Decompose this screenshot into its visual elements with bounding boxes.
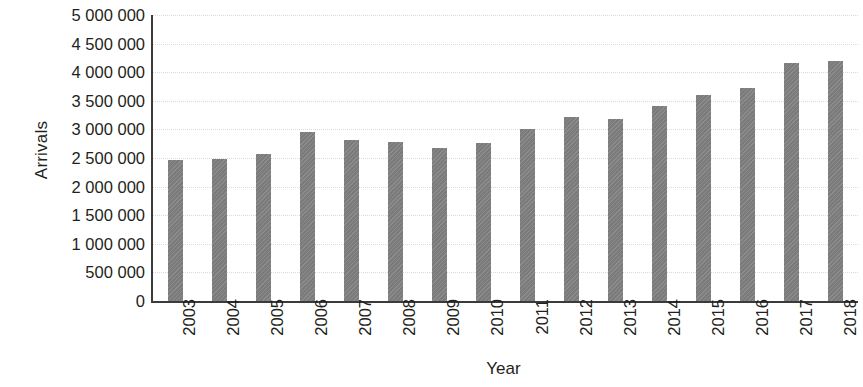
x-axis-tick-label: 2010: [489, 299, 506, 355]
x-axis-tick-label: 2012: [578, 299, 595, 355]
x-axis-tick-label: 2003: [181, 299, 198, 355]
bar[interactable]: [168, 160, 183, 301]
y-axis-tick-label: 0: [40, 293, 145, 309]
y-axis-tick-label: 2 000 000: [40, 179, 145, 195]
x-axis-tick-label: 2017: [798, 299, 815, 355]
bar[interactable]: [520, 129, 535, 301]
x-axis-tick-label: 2009: [445, 299, 462, 355]
y-axis-tick-label: 500 000: [40, 264, 145, 280]
bar[interactable]: [608, 119, 623, 301]
bar[interactable]: [432, 148, 447, 301]
x-axis-tick-label: 2007: [357, 299, 374, 355]
bar[interactable]: [476, 143, 491, 301]
x-axis-tick-label: 2005: [269, 299, 286, 355]
x-axis-title: Year: [151, 359, 856, 379]
plot-area: [151, 15, 858, 303]
x-axis-tick-labels: 2003200420052006200720082009201020112012…: [151, 303, 856, 359]
bar[interactable]: [828, 61, 843, 301]
bar-chart: Arrivals 0500 0001 000 0001 500 0002 000…: [0, 0, 863, 387]
x-axis-tick-label: 2015: [710, 299, 727, 355]
bar[interactable]: [652, 106, 667, 301]
y-axis-tick-label: 2 500 000: [40, 150, 145, 166]
y-axis-tick-label: 1 500 000: [40, 207, 145, 223]
bar[interactable]: [300, 132, 315, 301]
bar[interactable]: [344, 140, 359, 301]
x-axis-tick-label: 2006: [313, 299, 330, 355]
y-axis-tick-label: 4 500 000: [40, 36, 145, 52]
bar[interactable]: [256, 154, 271, 301]
bars-layer: [153, 15, 858, 301]
y-axis-tick-label: 5 000 000: [40, 7, 145, 23]
x-axis-tick-label: 2013: [622, 299, 639, 355]
y-axis-tick-label: 3 500 000: [40, 93, 145, 109]
x-axis-tick-label: 2011: [534, 299, 551, 355]
x-axis-tick-label: 2004: [225, 299, 242, 355]
bar[interactable]: [388, 142, 403, 301]
bar[interactable]: [696, 95, 711, 301]
x-axis-tick-label: 2016: [754, 299, 771, 355]
x-axis-tick-label: 2014: [666, 299, 683, 355]
y-axis-tick-label: 4 000 000: [40, 64, 145, 80]
y-axis-tick-labels: 0500 0001 000 0001 500 0002 000 0002 500…: [40, 0, 145, 310]
y-axis-tick-label: 3 000 000: [40, 121, 145, 137]
x-axis-tick-label: 2008: [401, 299, 418, 355]
x-axis-tick-label: 2018: [842, 299, 859, 355]
bar[interactable]: [564, 117, 579, 301]
y-axis-tick-label: 1 000 000: [40, 236, 145, 252]
bar[interactable]: [212, 159, 227, 301]
bar[interactable]: [740, 88, 755, 301]
bar[interactable]: [784, 63, 799, 301]
